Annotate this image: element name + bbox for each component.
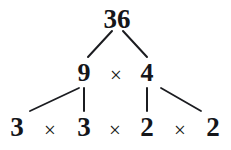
tree-node-level2-right: 4 — [141, 60, 154, 86]
tree-leaf-node: 2 — [140, 114, 154, 141]
multiply-operator-level3: × — [174, 120, 186, 141]
tree-leaf-node: 2 — [206, 114, 220, 141]
multiply-operator-level3: × — [44, 120, 56, 141]
tree-leaf-node: 3 — [77, 114, 91, 141]
tree-node-root: 36 — [104, 6, 131, 33]
edge-9-to-3a — [30, 88, 79, 111]
tree-leaf-node: 3 — [10, 114, 24, 141]
factor-tree-diagram: 36 9 × 4 3 × 3 × 2 × 2 — [0, 0, 231, 150]
edge-36-to-4 — [123, 31, 147, 57]
multiply-operator-level3: × — [109, 120, 121, 141]
tree-node-level2-left: 9 — [78, 60, 91, 86]
edge-36-to-9 — [88, 31, 112, 57]
multiply-operator-level2: × — [110, 65, 122, 86]
edge-4-to-2b — [161, 88, 201, 111]
